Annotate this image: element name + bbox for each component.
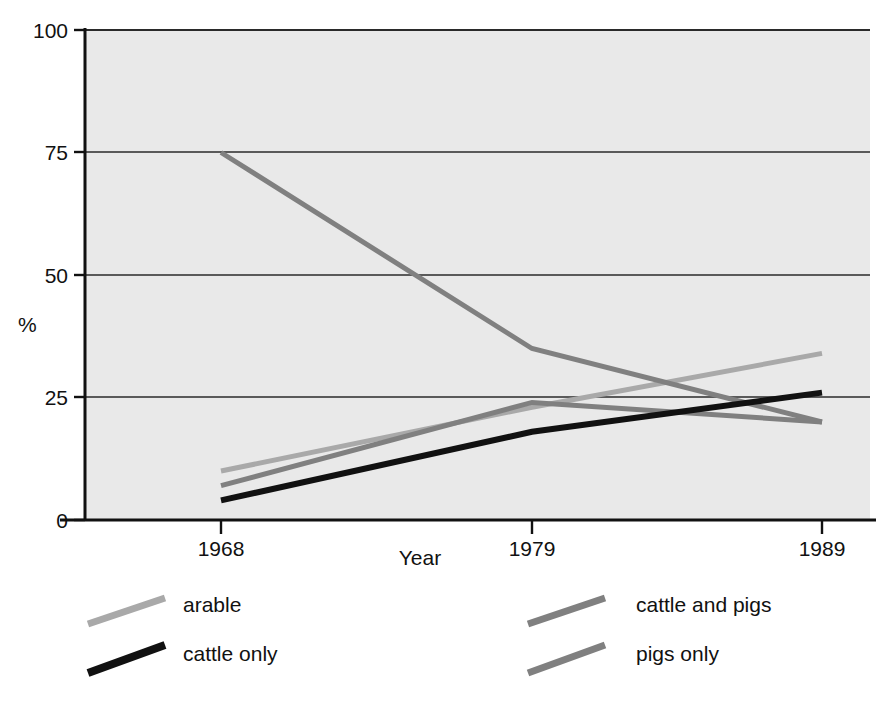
legend-swatch-arable <box>88 598 165 624</box>
chart-legend: arable cattle and pigs cattle only pigs … <box>88 593 771 673</box>
x-tick-label-1989: 1989 <box>799 537 846 560</box>
legend-swatch-pigs-only <box>528 645 605 673</box>
legend-label-pigs-only: pigs only <box>636 642 719 665</box>
legend-label-cattle-and-pigs: cattle and pigs <box>636 593 771 616</box>
y-tick-label-75: 75 <box>45 141 68 164</box>
x-tick-marks <box>221 520 822 534</box>
x-tick-label-1979: 1979 <box>509 537 556 560</box>
y-tick-label-50: 50 <box>45 264 68 287</box>
legend-label-cattle-only: cattle only <box>183 642 278 665</box>
legend-swatch-cattle-only <box>88 645 165 673</box>
y-tick-label-25: 25 <box>45 386 68 409</box>
y-tick-label-0: 0 <box>56 509 68 532</box>
legend-swatch-cattle-and-pigs <box>528 598 605 624</box>
y-axis-title: % <box>18 313 37 336</box>
x-axis-title: Year <box>399 546 441 569</box>
legend-label-arable: arable <box>183 593 241 616</box>
x-tick-label-1968: 1968 <box>198 537 245 560</box>
y-tick-marks <box>74 30 85 520</box>
y-tick-label-100: 100 <box>33 19 68 42</box>
chart-figure: 100 75 50 25 0 % 1968 1979 1989 Year ara… <box>0 0 882 708</box>
